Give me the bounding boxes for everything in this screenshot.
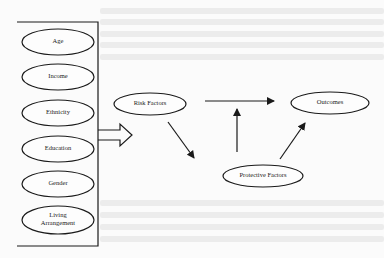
node-label: Income <box>48 72 68 79</box>
node-label-line2: Arrangement <box>41 219 75 226</box>
demographic-node-education: Education <box>22 136 94 162</box>
demographic-node-gender: Gender <box>22 171 94 197</box>
node-protective-factors: Protective Factors <box>223 165 303 187</box>
node-label-line1: Living <box>49 211 67 218</box>
arrow-protective-to-outcomes <box>280 123 305 159</box>
demographic-node-living-arrangement: Living Arrangement <box>22 206 94 234</box>
demographic-node-ethnicity: Ethnicity <box>22 100 94 126</box>
node-label: Education <box>45 144 72 151</box>
arrow-risk-to-protective <box>168 122 194 158</box>
node-label: Gender <box>48 179 68 186</box>
node-risk-factors: Risk Factors <box>114 93 186 115</box>
node-label: Ethnicity <box>46 108 71 115</box>
block-arrow-demographics-to-risk <box>98 124 132 146</box>
node-outcomes: Outcomes <box>291 92 369 114</box>
node-label: Protective Factors <box>239 171 287 178</box>
node-label: Outcomes <box>317 98 344 105</box>
demographic-node-income: Income <box>22 64 94 90</box>
conceptual-model-diagram: Age Income Ethnicity Education Gender Li… <box>0 0 384 258</box>
demographic-node-age: Age <box>22 29 94 55</box>
node-label: Age <box>53 37 64 44</box>
node-label: Risk Factors <box>134 99 167 106</box>
